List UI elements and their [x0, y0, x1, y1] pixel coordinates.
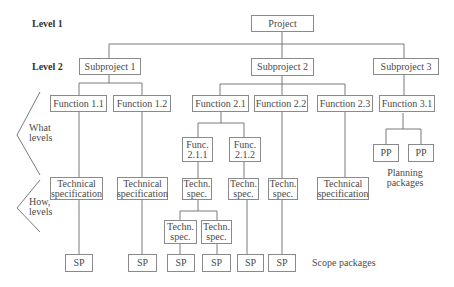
wbs-diagram: Level 1 Level 2 What levels How, levels …: [0, 0, 454, 287]
what-levels-label: What levels: [29, 123, 52, 143]
node-techn-spec-sub-b: Techn. spec.: [201, 220, 232, 244]
node-function-1-2: Function 1.2: [113, 95, 171, 112]
node-techn-spec-2-2: Techn. spec.: [268, 178, 298, 200]
node-scope-package-3: SP: [167, 254, 195, 272]
node-function-2-3: Function 2.3: [317, 95, 373, 112]
node-scope-package-5: SP: [237, 254, 264, 272]
node-tech-spec-1-2: Technical specification: [117, 177, 168, 200]
node-function-3-1: Function 3.1: [379, 95, 435, 112]
node-tech-spec-1-1: Technical specification: [50, 177, 103, 200]
node-func-2-1-1: Func. 2.1.1: [182, 137, 213, 162]
scope-packages-label: Scope packages: [312, 258, 376, 268]
node-techn-spec-2-1-1: Techn. spec.: [182, 178, 212, 200]
node-planning-package-2: PP: [408, 144, 434, 162]
node-function-2-1: Function 2.1: [192, 95, 249, 112]
node-subproject-3: Subproject 3: [373, 58, 439, 75]
node-scope-package-2: SP: [128, 254, 157, 272]
node-tech-spec-2-3: Technical specification: [317, 177, 369, 200]
level-1-label: Level 1: [32, 18, 63, 29]
node-scope-package-1: SP: [65, 254, 93, 272]
node-func-2-1-2: Func. 2.1.2: [229, 137, 261, 162]
node-subproject-1: Subproject 1: [79, 58, 141, 75]
planning-packages-label: Planning packages: [380, 168, 430, 188]
node-function-2-2: Function 2.2: [254, 95, 308, 112]
node-techn-spec-2-1-2: Techn. spec.: [228, 178, 259, 200]
node-function-1-1: Function 1.1: [50, 95, 107, 112]
node-planning-package-1: PP: [373, 144, 399, 162]
node-scope-package-6: SP: [268, 254, 296, 272]
node-techn-spec-sub-a: Techn. spec.: [164, 220, 197, 244]
how-levels-label: How, levels: [29, 197, 52, 217]
level-2-label: Level 2: [32, 61, 63, 72]
node-scope-package-4: SP: [202, 254, 231, 272]
node-subproject-2: Subproject 2: [251, 58, 314, 76]
node-project: Project: [251, 15, 314, 32]
